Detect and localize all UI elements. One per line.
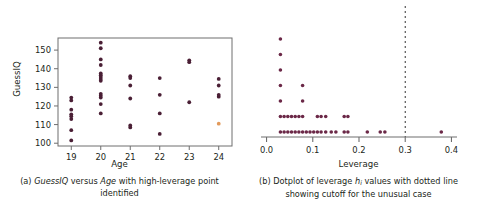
caption-panel-a: (a) GuessIQ versus Age with high-leverag… <box>8 176 231 199</box>
dotplot-dot <box>346 115 350 119</box>
x-axis-title-age: Age <box>0 159 239 169</box>
dotplot-dot <box>290 115 294 119</box>
data-point <box>128 97 132 101</box>
dotplot-dot <box>301 84 305 88</box>
dotplot-dot <box>439 130 443 134</box>
y-tick-label: 130 <box>35 82 51 92</box>
dotplot-dot <box>319 130 323 134</box>
data-point <box>128 84 132 88</box>
y-tick-label: 150 <box>35 45 51 55</box>
dotplot-dot <box>297 130 301 134</box>
plot-frame-a <box>58 38 232 146</box>
dotplot-dot <box>282 130 286 134</box>
dotplot-dot <box>297 115 301 119</box>
dotplot-dot <box>301 115 305 119</box>
dotplot-dot <box>293 115 297 119</box>
dotplot-dot <box>378 130 382 134</box>
scatter-plot-guessiq-vs-age: 100110120130140150192021222324 <box>0 0 239 176</box>
x-tick-label: 0.2 <box>352 145 365 155</box>
data-point <box>69 139 73 143</box>
x-tick-label: 0.0 <box>260 145 273 155</box>
dotplot-dot <box>279 37 283 41</box>
data-point <box>187 100 191 104</box>
dotplot-dot <box>286 115 290 119</box>
data-point <box>99 71 103 75</box>
data-point <box>99 58 103 62</box>
dotplot-dot <box>342 115 346 119</box>
dotplot-dot <box>286 130 290 134</box>
data-point <box>158 93 162 97</box>
caption-a-mid: versus <box>68 176 100 186</box>
data-point <box>217 84 221 88</box>
dotplot-dot <box>279 68 283 72</box>
data-point <box>158 132 162 136</box>
x-tick-label: 0.4 <box>445 145 458 155</box>
x-tick-label: 0.1 <box>306 145 319 155</box>
data-point <box>69 128 73 132</box>
panel-a-scatterplot: 100110120130140150192021222324 GuessIQ A… <box>0 0 239 220</box>
dotplot-dot <box>305 130 309 134</box>
dotplot-dot <box>346 130 350 134</box>
caption-a-var-age: Age <box>100 176 116 186</box>
panel-b-dotplot: 0.00.10.20.30.4 Leverage (b) Dotplot of … <box>239 0 478 220</box>
data-point <box>99 102 103 106</box>
data-point <box>99 46 103 50</box>
dotplot-dot <box>301 130 305 134</box>
caption-a-var-guessiq: GuessIQ <box>34 176 68 186</box>
dotplot-dot <box>383 130 387 134</box>
dotplot-dot <box>279 53 283 57</box>
caption-a-prefix: (a) <box>20 176 34 186</box>
dotplot-leverage: 0.00.10.20.30.4 <box>239 0 478 176</box>
data-point <box>158 76 162 80</box>
dotplot-dot <box>316 115 320 119</box>
dotplot-dot <box>301 99 305 103</box>
data-point <box>187 58 191 62</box>
caption-a-suffix: with high-leverage point identified <box>100 176 219 198</box>
dotplot-dot <box>342 130 346 134</box>
data-point-high-leverage <box>217 122 221 126</box>
data-point <box>128 124 132 128</box>
dotplot-dot <box>279 84 283 88</box>
dotplot-dot <box>366 130 370 134</box>
y-tick-label: 140 <box>35 64 51 74</box>
data-point <box>128 74 132 78</box>
dotplot-dot <box>319 115 323 119</box>
dotplot-dot <box>316 130 320 134</box>
x-axis-title-leverage: Leverage <box>239 159 478 169</box>
data-point <box>69 96 73 100</box>
data-point <box>217 93 221 97</box>
data-point <box>99 112 103 116</box>
data-point <box>99 92 103 96</box>
dotplot-dot <box>329 130 333 134</box>
y-tick-label: 100 <box>35 138 51 148</box>
caption-panel-b: (b) Dotplot of leverage hi values with d… <box>247 176 470 200</box>
dotplot-dot <box>279 99 283 103</box>
dotplot-dot <box>334 130 338 134</box>
data-point <box>99 41 103 45</box>
figure-container: 100110120130140150192021222324 GuessIQ A… <box>0 0 478 220</box>
caption-b-prefix: (b) Dotplot of leverage <box>259 176 355 186</box>
dotplot-dot <box>308 130 312 134</box>
dotplot-dot <box>324 115 328 119</box>
dotplot-dot <box>324 130 328 134</box>
dotplot-dot <box>293 130 297 134</box>
dotplot-dot <box>279 130 283 134</box>
dotplot-dot <box>290 130 294 134</box>
data-point <box>69 108 73 112</box>
x-tick-label: 0.3 <box>399 145 412 155</box>
dotplot-dot <box>312 130 316 134</box>
data-point <box>158 112 162 116</box>
data-point <box>217 77 221 81</box>
y-tick-label: 120 <box>35 101 51 111</box>
dotplot-dot <box>282 115 286 119</box>
data-point <box>99 63 103 67</box>
dotplot-dot <box>279 115 283 119</box>
data-point <box>69 112 73 116</box>
y-tick-label: 110 <box>35 120 51 130</box>
y-axis-title-guessiq: GuessIQ <box>12 42 22 116</box>
